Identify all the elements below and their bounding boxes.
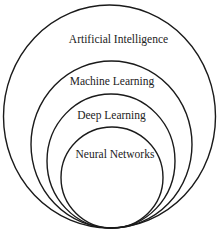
label-machine-learning: Machine Learning: [70, 75, 155, 88]
nested-circles-diagram: Artificial Intelligence Machine Learning…: [0, 0, 219, 234]
ring-deep-learning: Deep Learning: [47, 94, 175, 228]
label-artificial-intelligence: Artificial Intelligence: [69, 33, 168, 46]
ring-neural-networks: Neural Networks: [61, 127, 163, 228]
label-neural-networks: Neural Networks: [76, 148, 155, 160]
label-deep-learning: Deep Learning: [77, 109, 146, 122]
ring-machine-learning: Machine Learning: [31, 61, 192, 228]
ring-outline-nn: [61, 127, 163, 228]
